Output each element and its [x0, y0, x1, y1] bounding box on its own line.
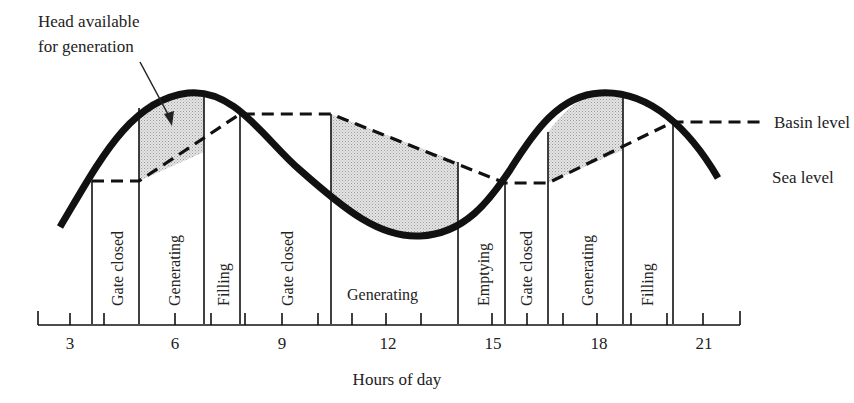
tidal-power-diagram: Head available for generation Basin leve…: [0, 0, 854, 403]
tick-label: 12: [380, 334, 397, 353]
phase-label: Filling: [639, 263, 657, 306]
phase-label: Generating: [166, 235, 184, 306]
axis-title: Hours of day: [353, 370, 442, 389]
phase-label: Generating: [579, 235, 597, 306]
head-region-midday: [331, 114, 458, 237]
tick-labels: 3 6 9 12 15 18 21: [66, 334, 713, 353]
phase-label: Gate closed: [518, 231, 535, 306]
phase-label: Gate closed: [279, 231, 296, 306]
sea-level-label: Sea level: [772, 168, 834, 187]
tick-label: 15: [485, 334, 502, 353]
tick-label: 3: [66, 334, 75, 353]
annotation-line1: Head available: [38, 12, 139, 31]
phase-label: Gate closed: [109, 231, 126, 306]
annotation-line2: for generation: [38, 37, 134, 56]
phase-label: Emptying: [475, 243, 493, 306]
basin-level-label: Basin level: [774, 113, 850, 132]
phase-label: Filling: [215, 263, 233, 306]
tick-label: 6: [171, 334, 180, 353]
tick-label: 9: [278, 334, 287, 353]
tick-label: 21: [696, 334, 713, 353]
phase-labels: Gate closed Generating Filling Gate clos…: [109, 231, 657, 306]
phase-label: Generating: [347, 286, 418, 304]
time-axis: [38, 311, 740, 325]
tick-label: 18: [591, 334, 608, 353]
